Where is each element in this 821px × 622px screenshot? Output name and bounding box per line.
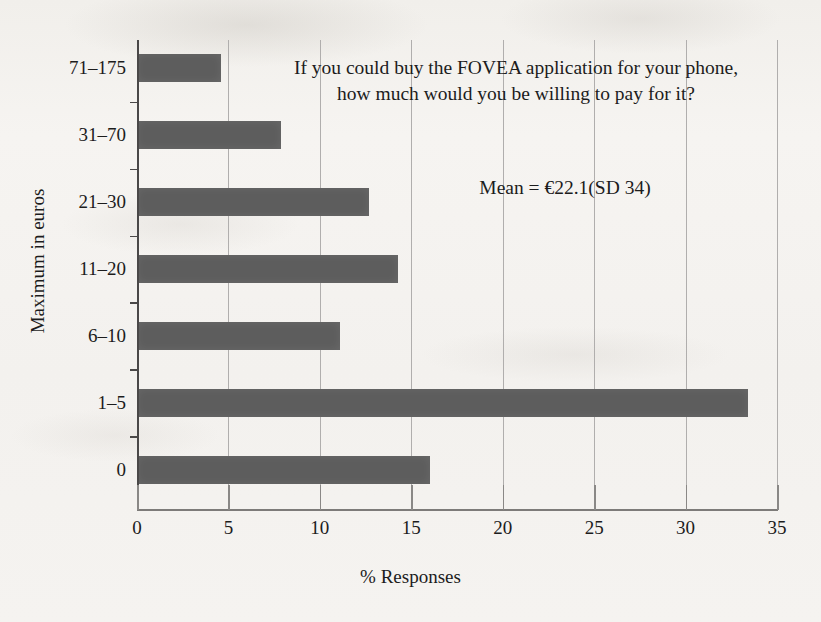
x-axis-tick: [228, 485, 230, 510]
chart-title-line-2: how much would you be willing to pay for…: [236, 81, 796, 107]
bar: [137, 456, 430, 484]
y-axis-title: Maximum in euros: [27, 131, 49, 391]
y-axis-tick: [130, 436, 138, 438]
bar: [137, 322, 340, 350]
x-axis-tick-label: 15: [381, 518, 441, 537]
x-axis-tick-label: 30: [656, 518, 716, 537]
x-axis-title: % Responses: [0, 566, 821, 588]
plot-area: [137, 40, 777, 508]
x-axis-tick-label: 25: [564, 518, 624, 537]
gridline: [503, 40, 504, 508]
y-axis-tick-label: 21–30: [79, 192, 127, 211]
x-axis-tick: [594, 485, 596, 510]
y-axis-tick-label: 1–5: [98, 393, 127, 412]
mean-annotation: Mean = €22.1(SD 34): [380, 176, 750, 200]
chart-figure: 71–17531–7021–3011–206–101–50 0510152025…: [0, 0, 821, 622]
y-axis-tick-label: 71–175: [69, 58, 126, 77]
bar: [137, 188, 369, 216]
y-axis-tick-label: 6–10: [88, 326, 126, 345]
y-axis-line: [137, 40, 139, 510]
x-axis-tick: [503, 485, 505, 510]
x-axis-line: [137, 509, 778, 511]
chart-title: If you could buy the FOVEA application f…: [236, 55, 796, 107]
x-axis-tick: [777, 485, 779, 510]
x-axis-tick: [411, 485, 413, 510]
x-axis-tick-label: 20: [473, 518, 533, 537]
y-axis-tick: [130, 169, 138, 171]
y-axis-tick: [130, 236, 138, 238]
y-axis-tick: [130, 369, 138, 371]
x-axis-tick-label: 0: [107, 518, 167, 537]
y-axis-tick: [130, 302, 138, 304]
x-axis-tick-label: 5: [198, 518, 258, 537]
bar: [137, 54, 221, 82]
x-axis-tick: [137, 485, 139, 510]
y-axis-tick: [130, 102, 138, 104]
x-axis-tick-label: 10: [290, 518, 350, 537]
y-axis-tick-label: 0: [117, 460, 127, 479]
bar: [137, 389, 748, 417]
x-axis-tick-label: 35: [747, 518, 807, 537]
bar: [137, 121, 281, 149]
y-axis-tick-label: 31–70: [79, 125, 127, 144]
gridline: [594, 40, 595, 508]
gridline: [686, 40, 687, 508]
x-axis-tick: [320, 485, 322, 510]
x-axis-tick: [686, 485, 688, 510]
gridline: [777, 40, 778, 508]
y-axis-tick-label: 11–20: [79, 259, 126, 278]
chart-title-line-1: If you could buy the FOVEA application f…: [236, 55, 796, 81]
bar: [137, 255, 398, 283]
gridline: [411, 40, 412, 508]
